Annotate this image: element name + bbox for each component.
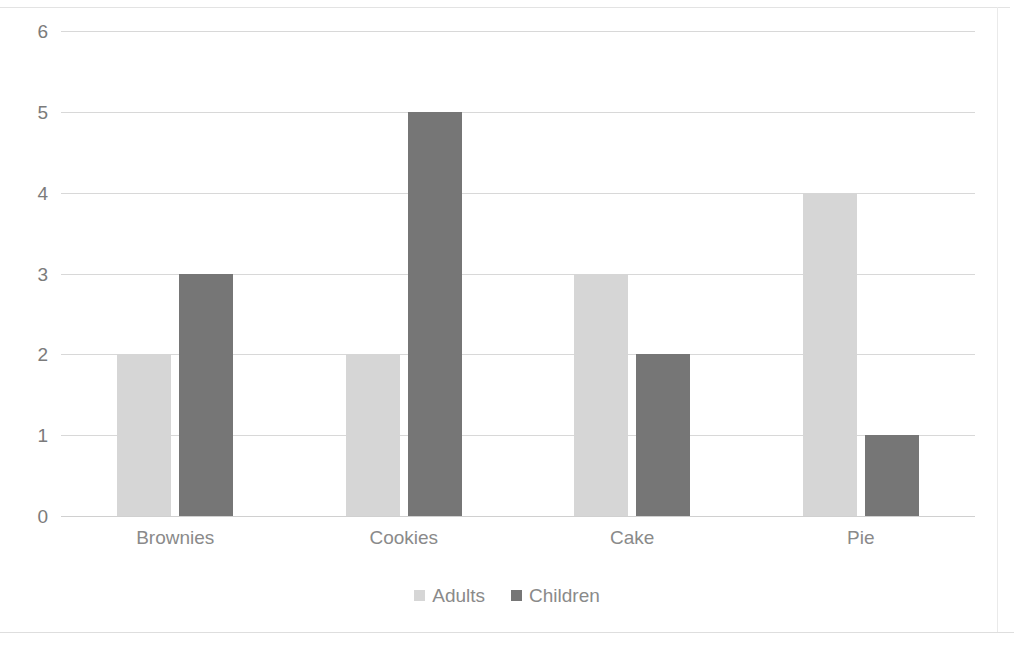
legend-label: Children (529, 586, 600, 605)
bar-pie-adults[interactable] (803, 193, 857, 516)
y-tick-label: 6 (8, 22, 48, 41)
y-tick-label: 2 (8, 345, 48, 364)
page-right-rule (997, 7, 998, 633)
gridline-0 (61, 516, 975, 517)
y-axis-tick-labels: 6543210 (0, 31, 48, 516)
y-tick-label: 3 (8, 264, 48, 283)
legend-swatch-children-icon (511, 590, 522, 601)
bar-brownies-adults[interactable] (117, 354, 171, 516)
x-axis-category-labels: BrowniesCookiesCakePie (61, 527, 975, 557)
chart-legend: AdultsChildren (0, 586, 1014, 605)
legend-label: Adults (432, 586, 485, 605)
legend-item-children[interactable]: Children (511, 586, 600, 605)
bar-chart: 6543210 BrowniesCookiesCakePie AdultsChi… (0, 0, 1014, 650)
legend-item-adults[interactable]: Adults (414, 586, 485, 605)
bar-cake-adults[interactable] (574, 274, 628, 517)
legend-swatch-adults-icon (414, 590, 425, 601)
y-tick-label: 1 (8, 426, 48, 445)
bar-pie-children[interactable] (865, 435, 919, 516)
x-label-pie: Pie (847, 527, 874, 550)
gridline-6 (61, 31, 975, 32)
x-label-cookies: Cookies (369, 527, 438, 550)
page-top-rule (0, 7, 1010, 8)
y-tick-label: 4 (8, 183, 48, 202)
bar-brownies-children[interactable] (179, 274, 233, 517)
x-label-brownies: Brownies (136, 527, 214, 550)
plot-area (61, 31, 975, 516)
bar-cookies-adults[interactable] (346, 354, 400, 516)
y-tick-label: 0 (8, 507, 48, 526)
bar-cake-children[interactable] (636, 354, 690, 516)
gridline-5 (61, 112, 975, 113)
x-label-cake: Cake (610, 527, 654, 550)
page-bottom-rule (0, 632, 1014, 633)
bar-cookies-children[interactable] (408, 112, 462, 516)
y-tick-label: 5 (8, 102, 48, 121)
